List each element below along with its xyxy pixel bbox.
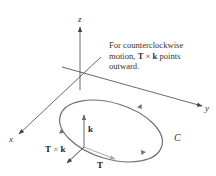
curve-arrow-top [137,104,143,110]
caption-line-2: motion, T × k points [109,51,209,62]
txk-vector [67,147,84,163]
t-vector-label: T [97,160,103,170]
z-axis-label: z [77,14,82,24]
caption-line-3: outward. [109,61,209,72]
x-axis-label: x [8,134,13,144]
caption-line-1: For counterclockwise [109,40,209,51]
diagram: z x y C k T T × k [0,0,216,176]
curve-arrow-bottom [141,150,146,155]
txk-vector-label: T × k [45,144,66,154]
caption: For counterclockwise motion, T × k point… [109,40,209,72]
vectors [67,115,115,163]
k-vector-label: k [88,124,93,134]
y-axis-label: y [204,103,209,113]
curve-label: C [174,132,181,143]
